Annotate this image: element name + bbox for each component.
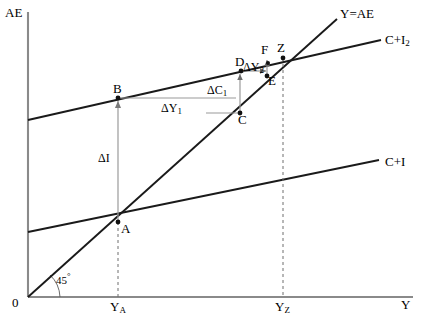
x-axis-label: Y xyxy=(401,298,410,311)
expenditure-lines xyxy=(28,19,381,297)
angle-value: 45 xyxy=(56,274,67,286)
annotation-delta-y2-sub: 2 xyxy=(259,65,264,75)
line-label-c-plus-i2-base: C+I xyxy=(385,32,405,47)
annotation-delta-c1-sub: 1 xyxy=(223,88,228,98)
point-label-E: E xyxy=(268,74,276,87)
point-label-Z: Z xyxy=(277,41,285,54)
x-tick-ya-sub: A xyxy=(119,305,126,315)
x-tick-yz-sub: Z xyxy=(284,305,290,315)
x-tick-label-yz: YZ xyxy=(275,300,290,315)
annotation-delta-y2: ΔY2 xyxy=(243,61,264,75)
degree-symbol: ° xyxy=(67,271,71,281)
line-label-c-plus-i2: C+I2 xyxy=(385,33,410,48)
point-marker-A xyxy=(116,220,121,225)
point-label-F: F xyxy=(261,43,268,56)
annotation-delta-i: ΔI xyxy=(98,152,110,164)
point-marker-Z xyxy=(281,56,286,61)
point-marker-B xyxy=(116,96,121,101)
annotation-delta-c1-base: ΔC xyxy=(207,83,223,97)
axes-group xyxy=(28,12,413,297)
line-label-c-plus-i2-sub: 2 xyxy=(405,38,410,48)
annotation-delta-y1-sub: 1 xyxy=(177,106,182,116)
x-tick-yz-base: Y xyxy=(275,299,284,314)
line-label-y-equals-ae: Y=AE xyxy=(340,7,374,20)
x-tick-ya-base: Y xyxy=(110,299,119,314)
y-axis-label: AE xyxy=(5,6,22,19)
figure-caption xyxy=(0,322,423,335)
annotation-delta-c1: ΔC1 xyxy=(207,84,227,98)
angle-label-45: 45° xyxy=(56,272,71,286)
point-label-C: C xyxy=(238,113,247,126)
point-marker-F xyxy=(266,61,270,65)
line-c-plus-i2 xyxy=(28,40,381,120)
line-label-c-plus-i: C+I xyxy=(385,155,405,168)
origin-label: 0 xyxy=(12,296,19,309)
annotation-delta-y2-base: ΔY xyxy=(243,60,259,74)
point-label-A: A xyxy=(121,222,130,235)
annotation-delta-y1: ΔY1 xyxy=(161,102,182,116)
line-c-plus-i xyxy=(28,160,379,232)
point-label-B: B xyxy=(113,82,122,95)
figure-canvas: AE Y 0 45° Y=AE C+I2 C+I A B C D E F Z Δ… xyxy=(0,0,423,335)
annotation-delta-y1-base: ΔY xyxy=(161,101,177,115)
x-tick-label-ya: YA xyxy=(110,300,126,315)
